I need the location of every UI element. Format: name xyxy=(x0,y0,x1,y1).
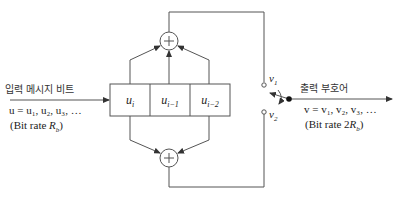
output-rate: (Bit rate 2Rb) xyxy=(305,119,364,133)
tap-v2-label: v2 xyxy=(269,109,277,123)
switch-pivot xyxy=(286,96,292,102)
input-rate: (Bit rate Rb) xyxy=(10,120,63,134)
register-cell-ui-2: ui−2 xyxy=(190,93,230,109)
output-sequence: v = v₁, v₂, v₃, … xyxy=(304,104,377,115)
output-title: 출력 부호어 xyxy=(300,84,348,94)
commutator-arm xyxy=(270,93,289,99)
input-title: 입력 메시지 비트 xyxy=(5,85,74,95)
tap-v2-terminal xyxy=(262,110,266,114)
register-cell-ui: ui xyxy=(110,93,150,109)
tap-v1-terminal xyxy=(262,83,266,87)
input-sequence: u = u₁, u₂, u₃, … xyxy=(9,105,82,116)
tap-v1-label: v1 xyxy=(269,73,277,87)
register-cell-ui-1: ui−1 xyxy=(150,93,190,109)
